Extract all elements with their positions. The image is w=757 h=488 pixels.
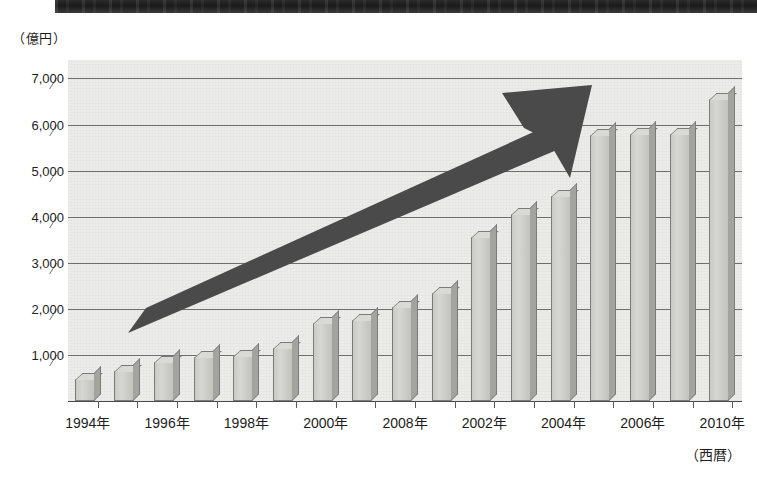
x-axis-tick-label: 2006年 (620, 412, 665, 432)
x-axis-tick (494, 401, 495, 408)
chart-plot-area (68, 60, 742, 401)
x-axis-tick (693, 401, 694, 408)
bar-side-face (689, 121, 696, 401)
gridline (68, 78, 742, 79)
bar-side-face (94, 366, 101, 401)
x-axis-tick (336, 401, 337, 408)
x-axis-tick (574, 401, 575, 408)
x-axis-tick-label: 1998年 (224, 412, 269, 432)
scan-artifact-bar (55, 0, 757, 13)
x-axis-tick (613, 401, 614, 408)
y-axis-tick-label: 5,000 (31, 163, 64, 178)
bar (194, 357, 214, 401)
bar-side-face (173, 349, 180, 401)
x-axis-baseline (68, 401, 742, 402)
bar (630, 134, 650, 401)
bar (392, 307, 412, 401)
bar (154, 362, 174, 401)
x-axis-tick (534, 401, 535, 408)
gridline (68, 125, 742, 126)
x-axis-tick (375, 401, 376, 408)
x-axis-tick (455, 401, 456, 408)
bar-side-face (213, 344, 220, 401)
bar-side-face (292, 335, 299, 401)
x-axis-tick-label: 2010年 (700, 412, 745, 432)
x-axis-tick (177, 401, 178, 408)
x-axis-tick (415, 401, 416, 408)
x-axis-tick-label: 1994年 (65, 412, 110, 432)
x-axis-tick-label: 2000年 (303, 412, 348, 432)
bar-side-face (490, 224, 497, 401)
bar (233, 356, 253, 401)
x-axis-tick (137, 401, 138, 408)
y-axis-tick-label: 3,000 (31, 255, 64, 270)
bar (114, 371, 134, 401)
bar (352, 320, 372, 401)
bar-side-face (728, 86, 735, 401)
bar-side-face (451, 280, 458, 401)
bar (313, 323, 333, 401)
x-axis-tick-label: 2008年 (382, 412, 427, 432)
bar-side-face (649, 121, 656, 401)
bar-side-face (411, 294, 418, 401)
y-axis-tick-label: 2,000 (31, 301, 64, 316)
x-axis-tick-label: 1996年 (145, 412, 190, 432)
bar-side-face (609, 122, 616, 401)
x-axis-tick-label: 2004年 (541, 412, 586, 432)
y-axis-tick-label: 6,000 (31, 117, 64, 132)
x-axis-tick (732, 401, 733, 408)
x-axis-tick (296, 401, 297, 408)
bar (590, 135, 610, 401)
x-axis-tick (256, 401, 257, 408)
bar (511, 214, 531, 401)
y-axis-tick-label: 4,000 (31, 209, 64, 224)
bar (273, 348, 293, 401)
bar-side-face (252, 343, 259, 401)
x-axis-tick (98, 401, 99, 408)
bar-side-face (332, 310, 339, 401)
bar-side-face (570, 183, 577, 401)
bar (709, 99, 729, 401)
x-axis-tick (653, 401, 654, 408)
bar (432, 293, 452, 401)
bar (471, 237, 491, 401)
y-axis-tick-label: 7,000 (31, 71, 64, 86)
bar-side-face (530, 201, 537, 401)
x-axis-era-label: （西暦） (685, 444, 741, 464)
bar (670, 134, 690, 401)
x-axis-tick-label: 2002年 (462, 412, 507, 432)
bar (75, 379, 95, 401)
y-axis-unit-label: （億円） (12, 28, 66, 47)
y-axis-tick-label: 1,000 (31, 347, 64, 362)
bar-side-face (133, 358, 140, 401)
x-axis-tick (217, 401, 218, 408)
bar (551, 196, 571, 401)
bar-side-face (371, 307, 378, 401)
